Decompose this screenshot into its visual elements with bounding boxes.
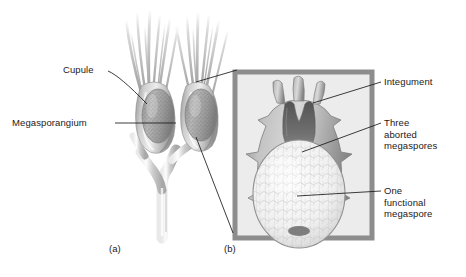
label-three-aborted-line-3: megaspores (384, 140, 437, 152)
label-three-aborted-megaspores: Three aborted megaspores (384, 117, 437, 152)
label-three-aborted-line-2: aborted (384, 129, 437, 141)
label-three-aborted-line-1: Three (384, 117, 437, 129)
label-cupule-text: Cupule (63, 64, 94, 75)
label-integument: Integument (384, 76, 433, 88)
label-one-functional-line-3: megaspore (384, 208, 432, 220)
label-integument-line-1: Integument (384, 76, 433, 88)
label-megasporangium: Megasporangium (12, 117, 87, 129)
chalaza (288, 226, 310, 236)
label-one-functional-line-1: One (384, 185, 432, 197)
panel-label-b: (b) (224, 243, 236, 254)
label-megasporangium-text: Megasporangium (12, 117, 87, 128)
label-one-functional-line-2: functional (384, 197, 432, 209)
panel-label-a: (a) (109, 243, 121, 254)
ovule-inset-panel (235, 72, 372, 248)
label-one-functional-megaspore: One functional megaspore (384, 185, 432, 220)
label-cupule: Cupule (63, 64, 94, 76)
